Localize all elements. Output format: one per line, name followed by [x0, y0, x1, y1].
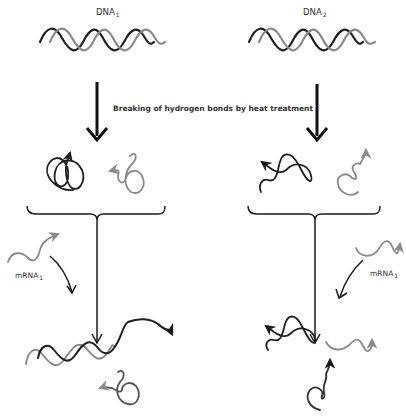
dna2-helix-icon — [249, 29, 375, 51]
dna2-strand-light-coil-icon — [338, 150, 366, 195]
dna1-strand-dark-coil-icon — [47, 153, 83, 190]
mrna-right-strand-icon — [356, 241, 400, 256]
dna2-dark-strand-coil-icon — [266, 316, 315, 350]
mrna-unbound-strand-icon — [326, 340, 372, 352]
mrna-left-strand-icon — [8, 234, 58, 262]
mrna-right-arrow-icon — [336, 260, 363, 298]
diagram-canvas — [0, 0, 406, 416]
heat-arrow-left-icon — [87, 82, 107, 140]
left-bracket — [27, 206, 165, 343]
dna1-strand-light-coil-icon — [110, 154, 144, 193]
heat-arrow-right-icon — [307, 84, 327, 140]
mrna-left-arrow-icon — [50, 256, 76, 293]
dna2-light-strand-coil-icon — [308, 360, 330, 410]
dna2-strand-dark-coil-icon — [260, 154, 312, 192]
hybrid-dna1-mrna-icon — [26, 319, 172, 365]
dna1-free-strand-coil-icon — [100, 371, 139, 404]
dna1-helix-icon — [40, 29, 165, 51]
right-bracket — [248, 206, 380, 343]
